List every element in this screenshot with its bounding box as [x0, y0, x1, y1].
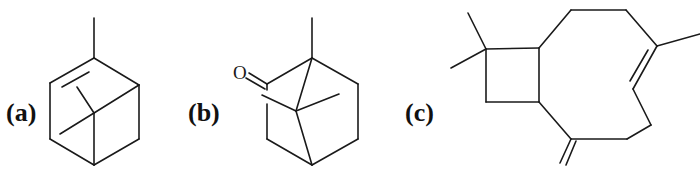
figure-canvas: (a) (b) (c) O — [0, 0, 700, 192]
molecule-a-alpha-pinene — [50, 18, 139, 165]
oxygen-atom: O — [233, 62, 247, 83]
molecule-b-camphor: O — [233, 18, 358, 165]
molecule-c-caryophyllene — [451, 10, 700, 165]
